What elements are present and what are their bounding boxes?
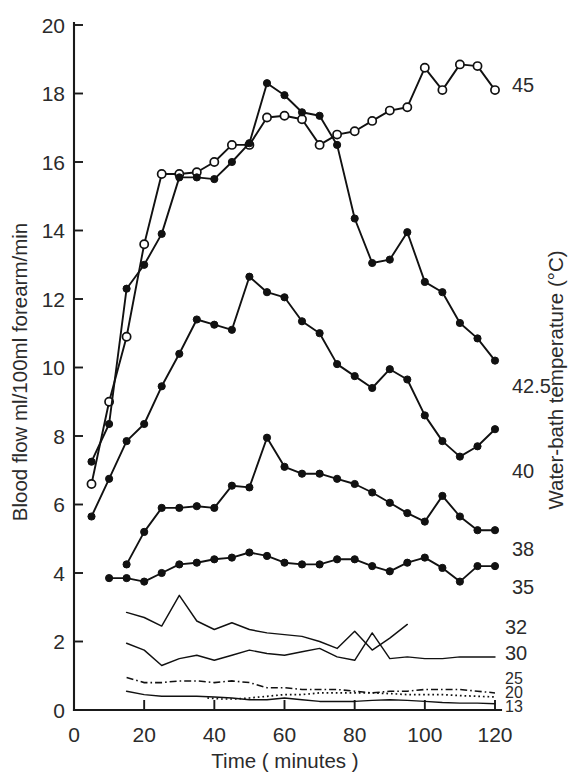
data-point-42.5 xyxy=(158,230,165,237)
data-point-45 xyxy=(140,240,148,248)
data-point-42.5 xyxy=(176,174,183,181)
data-point-40 xyxy=(316,330,323,337)
data-point-35 xyxy=(351,556,358,563)
data-point-42.5 xyxy=(439,289,446,296)
data-point-38 xyxy=(491,527,498,534)
x-tick-label: 100 xyxy=(407,723,442,746)
x-tick-label: 120 xyxy=(477,723,512,746)
data-point-45 xyxy=(491,86,499,94)
data-point-35 xyxy=(228,554,235,561)
data-point-38 xyxy=(176,504,183,511)
data-point-35 xyxy=(386,568,393,575)
data-point-35 xyxy=(211,556,218,563)
data-point-38 xyxy=(421,518,428,525)
series-25 xyxy=(127,678,495,693)
data-point-38 xyxy=(123,561,130,568)
figure-canvas: 02468101214161820 020406080100120 4542.5… xyxy=(0,0,582,777)
series-line-13 xyxy=(127,691,495,704)
y-tick-label: 16 xyxy=(42,151,65,174)
data-point-40 xyxy=(491,426,498,433)
data-point-40 xyxy=(176,350,183,357)
series-42.5 xyxy=(88,80,499,466)
data-point-38 xyxy=(141,528,148,535)
data-point-40 xyxy=(141,420,148,427)
data-point-38 xyxy=(228,482,235,489)
data-point-38 xyxy=(369,489,376,496)
chart-svg: 02468101214161820 020406080100120 4542.5… xyxy=(0,0,582,777)
series-20 xyxy=(207,693,495,699)
series-label-30: 30 xyxy=(505,642,527,664)
data-point-42.5 xyxy=(316,112,323,119)
series-line-32 xyxy=(127,595,408,650)
data-point-40 xyxy=(298,318,305,325)
y-tick-label: 4 xyxy=(53,562,65,585)
data-point-40 xyxy=(158,383,165,390)
data-point-35 xyxy=(106,575,113,582)
y-tick-label: 14 xyxy=(42,219,66,242)
series-label-38: 38 xyxy=(512,538,534,560)
data-point-40 xyxy=(211,321,218,328)
x-tick-label: 40 xyxy=(203,723,226,746)
y-tick-label: 10 xyxy=(42,356,65,379)
data-point-38 xyxy=(316,470,323,477)
data-point-40 xyxy=(263,289,270,296)
data-point-35 xyxy=(176,561,183,568)
series-32 xyxy=(127,595,408,650)
data-point-35 xyxy=(474,563,481,570)
data-point-40 xyxy=(88,513,95,520)
y-tick-labels: 02468101214161820 xyxy=(42,14,66,722)
data-point-40 xyxy=(421,412,428,419)
data-point-35 xyxy=(263,552,270,559)
data-point-35 xyxy=(439,564,446,571)
x-tick-labels: 020406080100120 xyxy=(68,723,512,746)
data-point-35 xyxy=(456,578,463,585)
data-point-40 xyxy=(386,366,393,373)
series-line-45 xyxy=(92,64,496,484)
data-point-42.5 xyxy=(193,174,200,181)
series-45 xyxy=(87,60,499,488)
data-point-42.5 xyxy=(123,285,130,292)
data-point-40 xyxy=(106,475,113,482)
data-point-40 xyxy=(193,316,200,323)
y-tick-label: 18 xyxy=(42,82,65,105)
data-point-35 xyxy=(334,556,341,563)
data-point-35 xyxy=(158,569,165,576)
data-point-42.5 xyxy=(298,109,305,116)
data-point-42.5 xyxy=(106,420,113,427)
series-layer xyxy=(87,60,499,704)
data-point-42.5 xyxy=(263,80,270,87)
data-point-35 xyxy=(404,559,411,566)
data-point-40 xyxy=(474,443,481,450)
data-point-38 xyxy=(474,527,481,534)
data-point-45 xyxy=(456,60,464,68)
data-point-38 xyxy=(158,504,165,511)
data-point-45 xyxy=(123,333,131,341)
data-point-38 xyxy=(263,434,270,441)
data-point-40 xyxy=(439,438,446,445)
series-label-13: 13 xyxy=(505,698,523,715)
series-line-30 xyxy=(127,633,495,666)
series-label-35: 35 xyxy=(512,576,534,598)
data-point-35 xyxy=(316,561,323,568)
series-35 xyxy=(106,549,499,585)
data-point-40 xyxy=(351,373,358,380)
data-point-42.5 xyxy=(474,335,481,342)
y-tick-label: 2 xyxy=(53,630,65,653)
x-axis-title: Time ( minutes ) xyxy=(211,749,358,772)
data-point-45 xyxy=(386,107,394,115)
data-point-38 xyxy=(298,470,305,477)
data-point-42.5 xyxy=(491,357,498,364)
data-point-42.5 xyxy=(334,141,341,148)
x-tick-label: 80 xyxy=(343,723,366,746)
data-point-45 xyxy=(351,127,359,135)
data-point-38 xyxy=(193,503,200,510)
data-point-35 xyxy=(298,561,305,568)
data-point-38 xyxy=(456,513,463,520)
data-point-45 xyxy=(421,64,429,72)
data-point-45 xyxy=(87,480,95,488)
data-point-45 xyxy=(263,113,271,121)
y-tick-label: 20 xyxy=(42,14,65,37)
data-point-40 xyxy=(456,453,463,460)
data-point-35 xyxy=(141,578,148,585)
data-point-45 xyxy=(158,170,166,178)
